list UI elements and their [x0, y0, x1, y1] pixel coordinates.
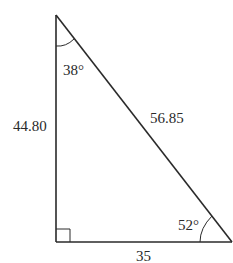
triangle-diagram: 38° 44.80 56.85 52° 35: [0, 0, 233, 263]
vertical-side-label: 44.80: [13, 118, 47, 134]
hypotenuse-label: 56.85: [150, 110, 184, 126]
top-angle-arc: [56, 39, 74, 46]
base-label: 35: [136, 248, 151, 263]
bottom-right-angle-arc: [200, 216, 212, 242]
right-angle-marker: [56, 229, 70, 242]
top-angle-label: 38°: [63, 62, 84, 78]
hypotenuse-side: [56, 15, 232, 242]
bottom-right-angle-label: 52°: [178, 217, 199, 233]
